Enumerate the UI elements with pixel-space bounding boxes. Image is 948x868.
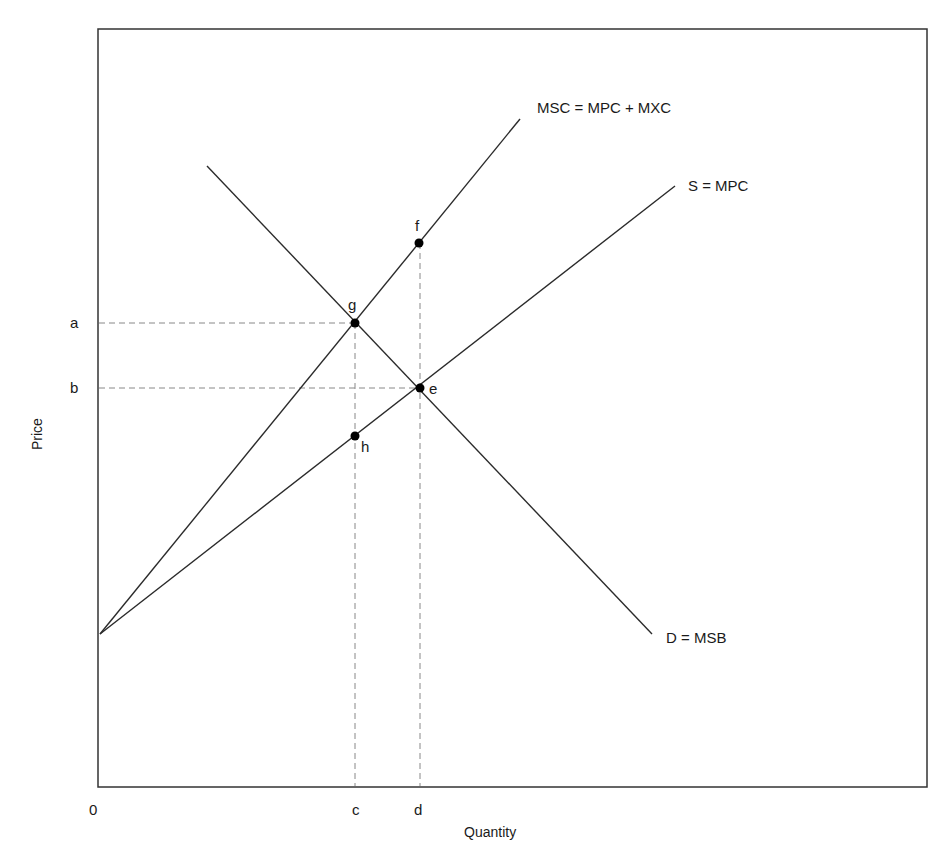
y-axis-title: Price bbox=[29, 418, 45, 450]
point-h bbox=[351, 432, 360, 441]
x-axis-title: Quantity bbox=[464, 824, 516, 840]
guide-lines bbox=[99, 243, 420, 786]
origin-label: 0 bbox=[89, 801, 97, 818]
point-e bbox=[416, 384, 425, 393]
plot-frame bbox=[98, 29, 927, 787]
externality-diagram: MSC = MPC + MXC S = MPC D = MSB g f e h … bbox=[0, 0, 948, 868]
msc-curve bbox=[100, 119, 520, 634]
point-g bbox=[351, 319, 360, 328]
demand-curve bbox=[207, 166, 652, 634]
point-f-label: f bbox=[415, 217, 420, 234]
curves bbox=[100, 119, 675, 634]
supply-curve-label: S = MPC bbox=[688, 177, 749, 194]
point-g-label: g bbox=[348, 296, 356, 313]
quantity-tick-d: d bbox=[414, 801, 422, 818]
point-f bbox=[415, 239, 424, 248]
price-tick-b: b bbox=[70, 379, 78, 396]
demand-curve-label: D = MSB bbox=[666, 629, 726, 646]
point-e-label: e bbox=[429, 380, 437, 397]
price-tick-a: a bbox=[70, 314, 79, 331]
quantity-tick-c: c bbox=[352, 801, 360, 818]
point-h-label: h bbox=[361, 438, 369, 455]
msc-curve-label: MSC = MPC + MXC bbox=[537, 99, 671, 116]
